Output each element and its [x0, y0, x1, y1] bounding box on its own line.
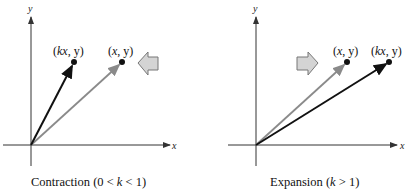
original-point-label: (x, y)	[333, 44, 358, 58]
caption-text: Expansion (	[270, 175, 330, 189]
y-axis-label: y	[252, 3, 258, 14]
contraction-caption: Contraction (0 < k < 1)	[31, 175, 146, 190]
expanded-vector	[256, 64, 386, 145]
original-point	[344, 59, 350, 65]
expansion-caption: Expansion (k > 1)	[270, 175, 359, 190]
original-point-label: (x, y)	[108, 44, 133, 58]
expanded-point-label: (kx, y)	[371, 44, 402, 58]
x-axis-label: x	[171, 140, 177, 151]
original-vector	[31, 65, 119, 145]
left-block-arrow-icon	[138, 52, 158, 75]
contracted-point	[71, 59, 77, 65]
expanded-point	[386, 59, 392, 65]
contracted-point-label: (kx, y)	[53, 44, 84, 58]
y-axis-label: y	[27, 3, 33, 14]
original-point	[119, 59, 125, 65]
figure-canvas: x y (kx, y) (x, y) x y (x, y) (kx, y)	[0, 0, 408, 195]
contracted-vector	[31, 66, 72, 145]
caption-text: < 1)	[122, 175, 146, 189]
x-axis-label: x	[399, 140, 405, 151]
caption-text: > 1)	[336, 175, 360, 189]
contraction-diagram: x y (kx, y) (x, y)	[3, 3, 177, 166]
original-vector	[256, 65, 344, 145]
right-block-arrow-icon	[297, 52, 318, 75]
expansion-diagram: x y (x, y) (kx, y)	[228, 3, 405, 166]
caption-text: Contraction (0 <	[31, 175, 117, 189]
